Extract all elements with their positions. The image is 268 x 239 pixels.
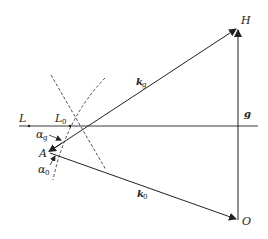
label-k-0: k 0 (137, 188, 147, 201)
svg-text:0: 0 (62, 118, 66, 126)
point-L0 (69, 125, 71, 127)
label-L: L (18, 112, 26, 125)
vector-k-0 (50, 153, 236, 219)
diffraction-diagram: H O A L L 0 g k g k 0 α g α 0 (0, 0, 268, 239)
alpha-0-arrow (50, 156, 55, 165)
label-alpha-g: α g (36, 128, 48, 142)
svg-text:g: g (142, 81, 147, 89)
alpha-g-arrow (49, 135, 61, 140)
label-L0: L 0 (54, 112, 66, 126)
point-L (28, 125, 30, 127)
svg-text:0: 0 (143, 193, 147, 201)
label-H: H (240, 14, 251, 27)
svg-text:g: g (43, 134, 48, 142)
label-g: g (244, 108, 251, 119)
label-O: O (242, 215, 251, 228)
arrow-to-A (49, 143, 62, 152)
label-k-g: k g (136, 76, 147, 89)
label-alpha-0: α 0 (38, 163, 49, 177)
svg-text:0: 0 (45, 169, 49, 177)
vector-k-g (50, 29, 236, 151)
label-A: A (38, 147, 47, 160)
dashed-curve-2 (53, 78, 105, 180)
